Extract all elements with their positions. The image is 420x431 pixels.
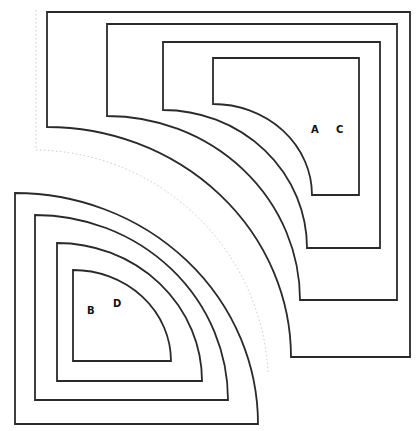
label-b: B [87, 305, 95, 316]
label-d: D [113, 298, 121, 309]
quarter-circle-outer [15, 193, 258, 424]
l-shape-outer [47, 12, 410, 357]
label-a: A [311, 124, 319, 135]
label-c: C [336, 124, 343, 135]
l-shape-3 [163, 42, 380, 248]
l-shape-2 [107, 24, 397, 300]
guide-arc [36, 150, 268, 372]
diagram-canvas: A C B D [0, 0, 420, 431]
